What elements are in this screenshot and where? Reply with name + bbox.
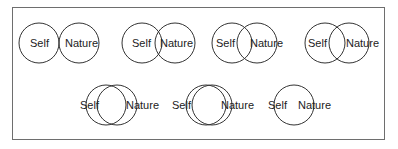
self-label: Self: [268, 99, 288, 111]
nature-label: Nature: [160, 37, 193, 49]
circle-pair-7: SelfNature: [268, 85, 331, 125]
circle-pair-1: SelfNature: [19, 23, 99, 63]
self-label: Self: [132, 37, 152, 49]
nature-label: Nature: [298, 99, 331, 111]
nature-label: Nature: [221, 99, 254, 111]
self-label: Self: [216, 37, 236, 49]
nature-label: Nature: [346, 37, 379, 49]
circle-pair-3: SelfNature: [212, 23, 283, 63]
self-label: Self: [308, 37, 328, 49]
self-label: Self: [80, 99, 100, 111]
circle-pair-4: SelfNature: [305, 23, 379, 63]
nature-label: Nature: [65, 37, 98, 49]
circle-pair-5: SelfNature: [80, 85, 159, 125]
self-label: Self: [30, 37, 50, 49]
self-label: Self: [172, 99, 192, 111]
circle-pair-6: SelfNature: [172, 85, 254, 125]
circles-diagram: SelfNatureSelfNatureSelfNatureSelfNature…: [0, 0, 398, 149]
circle-pair-2: SelfNature: [122, 23, 195, 63]
nature-label: Nature: [126, 99, 159, 111]
nature-label: Nature: [250, 37, 283, 49]
